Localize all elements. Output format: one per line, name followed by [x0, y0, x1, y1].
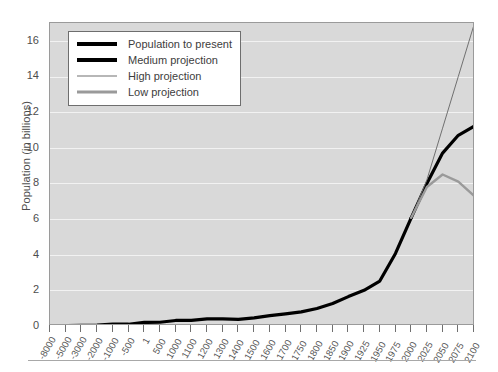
bottom-divider: [28, 360, 476, 361]
population-line-chart: Population (in billions) 0246810121416 P…: [0, 0, 498, 372]
x-axis-tick-labels: -8000-5000-3000-2000-1000-50015001000110…: [0, 0, 498, 372]
